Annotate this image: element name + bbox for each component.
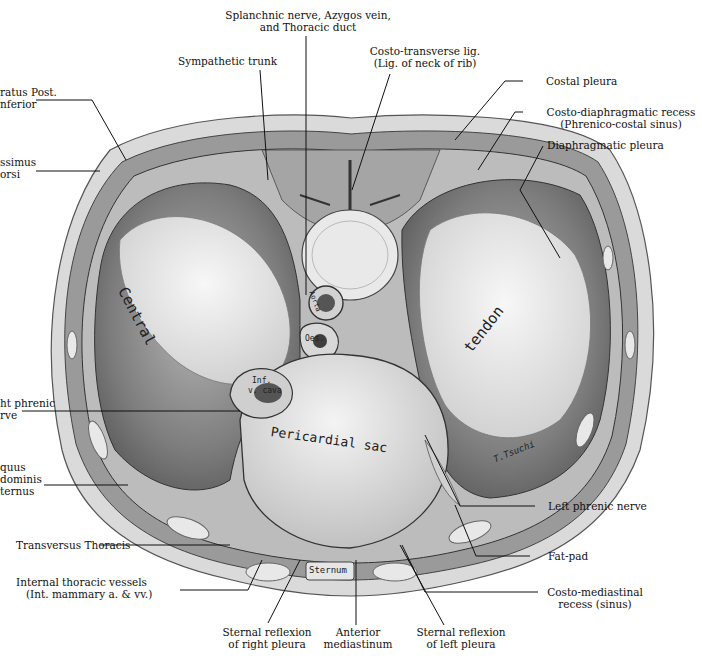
diaphragm-illustration	[0, 0, 702, 668]
label-costal-pleura: Costal pleura	[546, 75, 617, 87]
label-anterior-mediastinum: Anterior mediastinum	[318, 626, 398, 650]
label-diaphragmatic-pleura: Diaphragmatic pleura	[547, 139, 664, 151]
label-latissimus-dorsi: ssimus orsi	[0, 156, 36, 180]
label-internal-thoracic-vessels: Internal thoracic vessels (Int. mammary …	[16, 576, 152, 600]
label-serratus-post-inferior: ratus Post. nferior	[0, 86, 57, 110]
inscription-oesophagus: Oes.	[305, 334, 324, 343]
label-left-phrenic-nerve: Left phrenic nerve	[548, 500, 647, 512]
central-tendon-left	[419, 213, 590, 438]
label-sympathetic-trunk: Sympathetic trunk	[178, 55, 277, 67]
label-transversus-thoracis: Transversus Thoracis	[16, 539, 130, 551]
inscription-ivc-2: v. cava	[248, 386, 282, 395]
vertebral-body	[302, 210, 398, 300]
label-costo-diaphragmatic-recess: Costo-diaphragmatic recess (Phrenico-cos…	[540, 106, 702, 130]
label-costo-mediastinal-recess: Costo-mediastinal recess (sinus)	[540, 586, 650, 610]
label-fat-pad: Fat-pad	[548, 550, 588, 562]
label-costo-transverse: Costo-transverse lig. (Lig. of neck of r…	[350, 45, 500, 69]
label-right-phrenic-nerve: ht phrenic rve	[0, 397, 55, 421]
label-obliquus-abdominis-externus: quus dominis ternus	[0, 461, 42, 497]
anatomy-figure: Central tendon Pericardial sac Inf. v. c…	[0, 0, 702, 668]
label-sternal-reflexion-right: Sternal reflexion of right pleura	[212, 626, 322, 650]
inscription-ivc-1: Inf.	[252, 376, 271, 385]
inscription-sternum: Sternum	[309, 565, 347, 575]
label-sternal-reflexion-left: Sternal reflexion of left pleura	[406, 626, 516, 650]
label-splanchnic: Splanchnic nerve, Azygos vein, and Thora…	[208, 9, 408, 33]
